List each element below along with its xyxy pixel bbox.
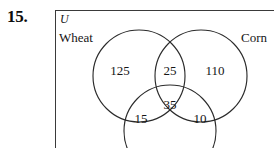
venn-diagram-figure: 15. U Wheat Corn 125 25 110 35 15 10 <box>0 0 274 148</box>
set-label-corn: Corn <box>241 31 267 44</box>
region-count-corn-only: 110 <box>205 64 224 77</box>
region-count-wheat-corn: 25 <box>164 64 177 77</box>
venn-circles <box>0 0 274 148</box>
set-label-wheat: Wheat <box>59 31 93 44</box>
region-count-wheat-third: 15 <box>135 112 148 125</box>
region-count-wheat-only: 125 <box>110 64 130 77</box>
region-count-all-three: 35 <box>164 98 177 111</box>
region-count-corn-third: 10 <box>194 112 207 125</box>
